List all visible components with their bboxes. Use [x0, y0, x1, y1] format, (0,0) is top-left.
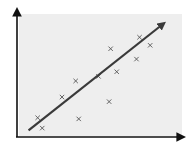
scatter-chart — [0, 0, 190, 150]
